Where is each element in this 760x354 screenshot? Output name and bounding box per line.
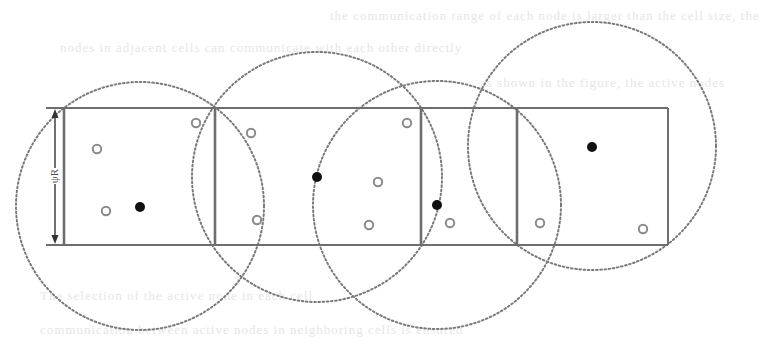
- grid-cells: [46, 108, 668, 245]
- hollow-node-icon: [403, 119, 411, 127]
- hollow-node-icon: [365, 221, 373, 229]
- dimension-marker: ψR: [48, 109, 61, 244]
- hollow-node-icon: [639, 225, 647, 233]
- coverage-circles: [16, 22, 716, 330]
- hollow-node-icon: [93, 145, 101, 153]
- arrow-down-icon: [52, 235, 59, 244]
- hollow-node-icon: [536, 219, 544, 227]
- hollow-node-icon: [253, 216, 261, 224]
- active-node-icon: [587, 142, 597, 152]
- active-node-icon: [312, 172, 322, 182]
- hollow-node-icon: [102, 207, 110, 215]
- sensor-nodes: [93, 119, 647, 233]
- dimension-label: ψR: [48, 168, 60, 183]
- hollow-node-icon: [247, 129, 255, 137]
- hollow-node-icon: [192, 119, 200, 127]
- hollow-node-icon: [374, 178, 382, 186]
- hollow-node-icon: [446, 219, 454, 227]
- active-node-icon: [432, 200, 442, 210]
- active-node-icon: [135, 202, 145, 212]
